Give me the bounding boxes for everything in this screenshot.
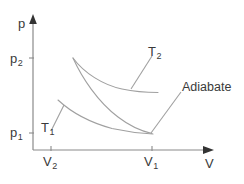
x-tick-label-v1: V1 [144, 155, 158, 168]
x-tick-label-v2-sub: 2 [52, 161, 58, 171]
x-tick-label-v1-sub: 1 [153, 161, 159, 171]
y-tick-label-p2-sub: 2 [17, 58, 23, 68]
y-axis-arrowhead [29, 14, 37, 24]
curve-label-t2: T2 [148, 45, 161, 58]
curve-label-t1-sub: 1 [49, 127, 55, 137]
curve-adiabat [73, 58, 152, 134]
y-tick-label-p1: p1 [10, 126, 23, 139]
x-axis-arrowhead [203, 146, 214, 154]
pv-diagram: p V p2 p1 V2 V1 T2 T1 Adiabate [0, 0, 244, 184]
y-tick-label-p2: p2 [10, 52, 23, 65]
curve-label-adiabate: Adiabate [182, 81, 231, 94]
curve-label-t2-sub: 2 [156, 51, 162, 61]
x-tick-label-v2: V2 [43, 155, 57, 168]
curve-isotherm-t2 [73, 58, 158, 93]
y-axis-label: p [18, 17, 25, 30]
curve-label-t1-base: T [41, 120, 49, 135]
leader-line-adiabate [151, 92, 181, 133]
y-tick-label-p1-sub: 1 [17, 132, 23, 142]
curve-label-t2-base: T [148, 44, 156, 59]
x-tick-label-v1-base: V [144, 154, 153, 169]
x-axis-label: V [205, 157, 214, 170]
curve-label-t1: T1 [41, 121, 54, 134]
leader-line-t2 [131, 56, 152, 89]
x-tick-label-v2-base: V [43, 154, 52, 169]
